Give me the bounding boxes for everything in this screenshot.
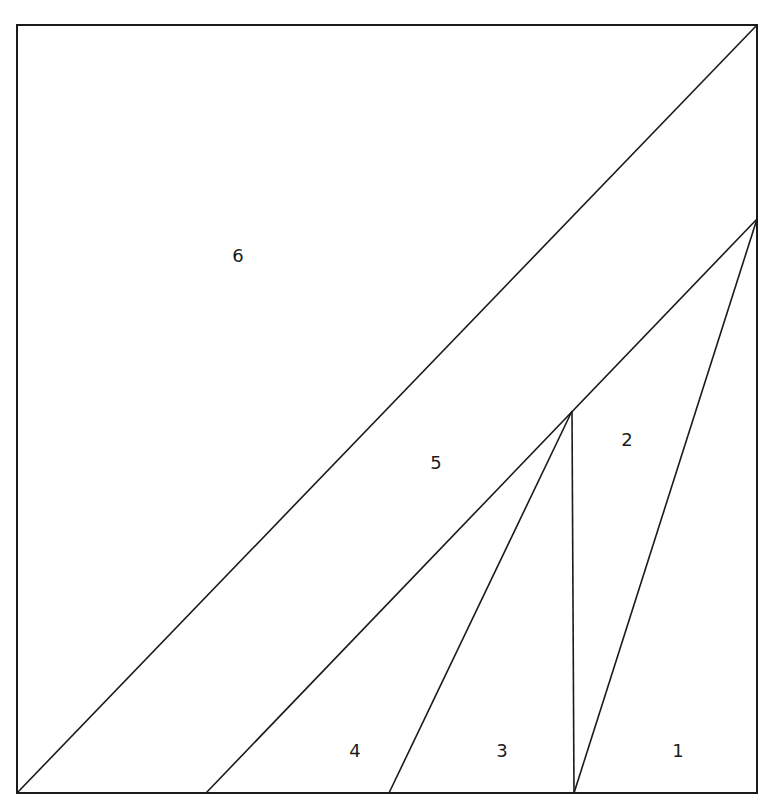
second-slant-line: [206, 219, 757, 793]
region-label-4: 4: [349, 740, 360, 761]
region-label-6: 6: [232, 245, 243, 266]
third-slant-line: [389, 411, 572, 793]
steep-slant-line: [574, 219, 757, 793]
region-label-2: 2: [621, 429, 632, 450]
diagonal-line: [17, 25, 757, 793]
dissection-diagram: 1 2 3 4 5 6: [0, 0, 777, 807]
region-label-3: 3: [496, 740, 507, 761]
region-label-5: 5: [430, 452, 441, 473]
vertical-line: [572, 411, 574, 793]
region-label-1: 1: [672, 740, 683, 761]
